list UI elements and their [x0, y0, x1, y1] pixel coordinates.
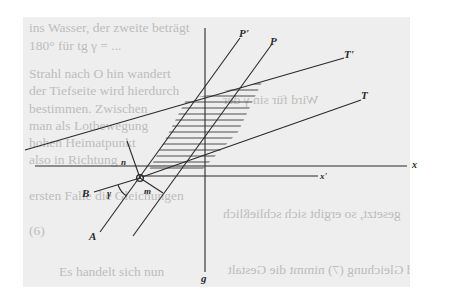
label-m: m	[144, 186, 151, 196]
line-B	[94, 178, 140, 192]
label-T-prime: T'	[344, 48, 354, 60]
line-T-prime	[25, 58, 344, 150]
normal-n	[127, 141, 140, 178]
label-x: x	[411, 159, 417, 170]
label-g: g	[200, 272, 207, 284]
label-gamma: γ	[107, 188, 112, 199]
line-P	[133, 44, 272, 236]
label-P: P	[270, 35, 277, 47]
angle-gamma-arc	[118, 185, 127, 196]
label-A: A	[88, 230, 96, 242]
geometry-diagram: P' P T' T x x' g B A n m γ	[0, 0, 449, 305]
label-T: T	[361, 89, 369, 101]
line-A-P-prime	[100, 38, 240, 232]
label-n: n	[121, 157, 126, 167]
label-P-prime: P'	[239, 27, 249, 39]
label-B: B	[81, 187, 89, 199]
label-x-prime: x'	[319, 171, 328, 181]
